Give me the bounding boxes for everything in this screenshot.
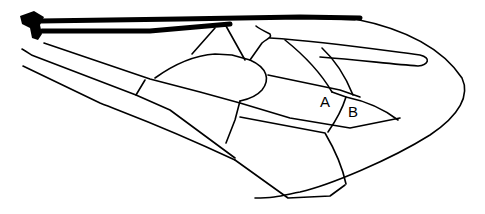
wing-diagram: A B (0, 0, 485, 214)
subcosta-vein (42, 24, 230, 31)
posterior-margin (235, 160, 345, 198)
lower-cell-vein (240, 117, 346, 184)
radial-cell-vein (270, 38, 427, 66)
crossvein-2 (250, 26, 271, 60)
discal-cell-vein (155, 54, 266, 101)
wing-base (20, 11, 44, 40)
anal-vein (23, 66, 235, 160)
crossvein-6 (226, 101, 240, 143)
media-vein (44, 43, 400, 128)
cubitus-vein (22, 49, 235, 158)
stigma (300, 17, 355, 19)
wing-margin (255, 19, 465, 198)
submarginal-vein (268, 75, 360, 97)
crossvein-basal (136, 80, 145, 95)
label-b: B (348, 103, 358, 120)
crossvein-1 (192, 28, 215, 54)
label-a: A (320, 93, 330, 110)
